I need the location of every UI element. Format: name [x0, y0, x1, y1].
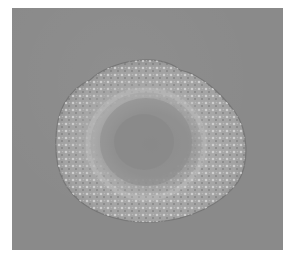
cell-illustration [50, 52, 254, 224]
cell-body [50, 52, 254, 224]
micrograph-frame [12, 8, 283, 250]
